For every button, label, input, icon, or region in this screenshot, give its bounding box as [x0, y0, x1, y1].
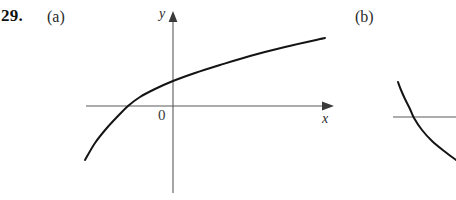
y-axis-label: y: [159, 7, 165, 21]
x-axis-label: x: [322, 112, 328, 126]
y-axis-arrow-icon: [169, 11, 178, 22]
curve-a: [85, 38, 325, 160]
panel-a-graph: [0, 0, 456, 200]
x-axis-arrow-icon: [322, 102, 334, 111]
figure-page: 29. (a) (b) y x 0: [0, 0, 456, 200]
origin-label: 0: [158, 108, 166, 123]
